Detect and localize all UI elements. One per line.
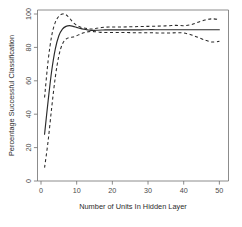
- x-tick-label: 0: [39, 186, 43, 195]
- y-tick-label: 100: [24, 8, 33, 20]
- x-tick-label: 40: [180, 186, 188, 195]
- x-tick-label: 50: [215, 186, 223, 195]
- mean-series-line: [45, 26, 220, 135]
- line-chart-plot: 01020304050020406080100Number of Units I…: [0, 0, 242, 227]
- x-tick-label: 20: [108, 186, 116, 195]
- y-tick-label: 60: [24, 77, 33, 85]
- y-tick-label: 40: [24, 110, 33, 118]
- plot-frame: [38, 10, 229, 181]
- x-axis-title: Number of Units In Hidden Layer: [79, 202, 187, 211]
- upper-confidence-band-line: [45, 14, 220, 98]
- y-tick-label: 20: [24, 144, 33, 152]
- y-tick-label: 80: [24, 43, 33, 51]
- chart-figure: 01020304050020406080100Number of Units I…: [0, 0, 242, 227]
- x-tick-label: 10: [73, 186, 81, 195]
- y-tick-label: 0: [24, 179, 33, 183]
- y-axis-title: Percentage Successful Classification: [7, 35, 16, 156]
- x-tick-label: 30: [144, 186, 152, 195]
- lower-confidence-band-line: [45, 32, 220, 168]
